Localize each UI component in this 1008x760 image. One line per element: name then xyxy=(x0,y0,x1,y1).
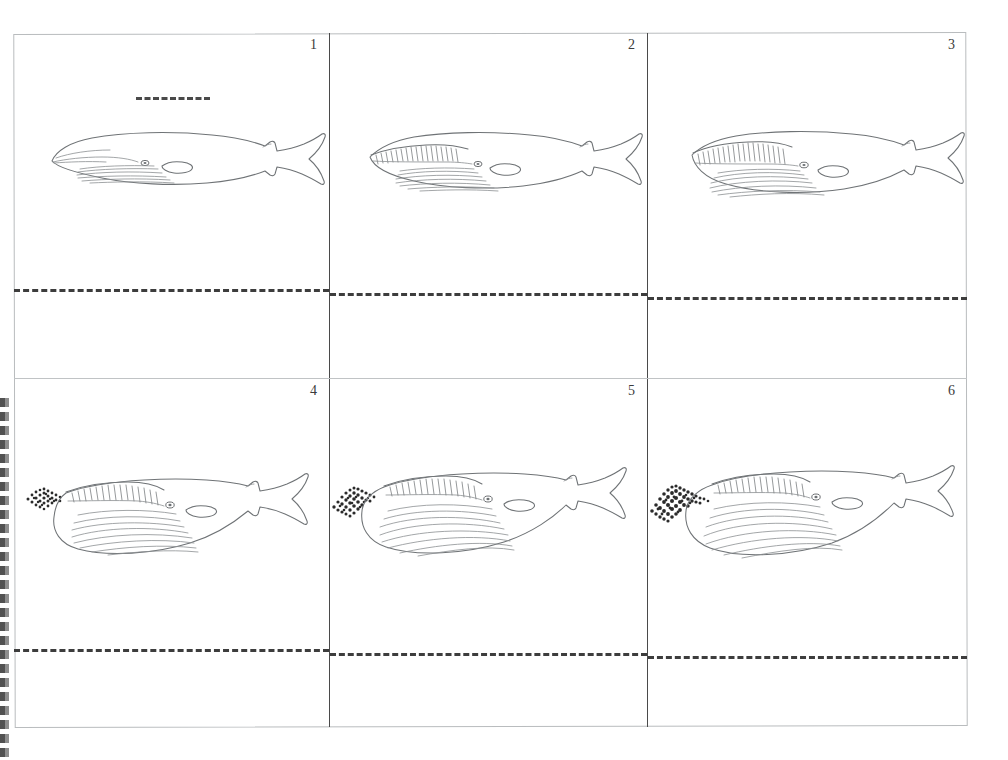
fold-guide-dashes xyxy=(136,97,210,100)
whale-drawing-5 xyxy=(316,459,641,579)
fold-line-1 xyxy=(14,289,329,292)
fold-line-6 xyxy=(648,656,967,659)
fold-line-3 xyxy=(648,297,967,300)
panel-number-3: 3 xyxy=(948,38,955,52)
panel-number-4: 4 xyxy=(310,384,317,398)
fold-line-5 xyxy=(330,653,647,656)
flipbook-sheet: 1 xyxy=(0,0,1008,760)
whale-drawing-4 xyxy=(4,465,324,580)
panel-number-1: 1 xyxy=(310,38,317,52)
fold-line-4 xyxy=(14,649,329,652)
panel-1[interactable]: 1 xyxy=(14,33,329,378)
whale-drawing-1 xyxy=(32,121,332,201)
whale-drawing-6 xyxy=(640,457,965,582)
panel-6[interactable]: 6 xyxy=(648,379,967,727)
whale-drawing-2 xyxy=(348,121,648,206)
panel-2[interactable]: 2 xyxy=(330,33,647,378)
panel-3[interactable]: 3 xyxy=(648,33,967,378)
krill-swarm xyxy=(332,487,375,518)
panel-number-5: 5 xyxy=(628,384,635,398)
panel-5[interactable]: 5 xyxy=(330,379,647,727)
panel-number-2: 2 xyxy=(628,38,635,52)
panel-4[interactable]: 4 xyxy=(14,379,329,727)
whale-drawing-3 xyxy=(668,121,968,216)
panel-number-6: 6 xyxy=(948,384,955,398)
fold-line-2 xyxy=(330,293,647,296)
